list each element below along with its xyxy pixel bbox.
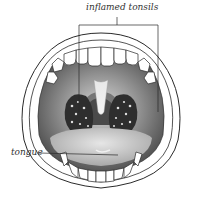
tonsils-label: inflamed tonsils xyxy=(86,3,158,12)
mouth-diagram: inflamed tonsils tongue xyxy=(0,0,202,198)
tongue-label: tongue xyxy=(11,148,43,157)
mouth-illustration xyxy=(0,0,202,198)
